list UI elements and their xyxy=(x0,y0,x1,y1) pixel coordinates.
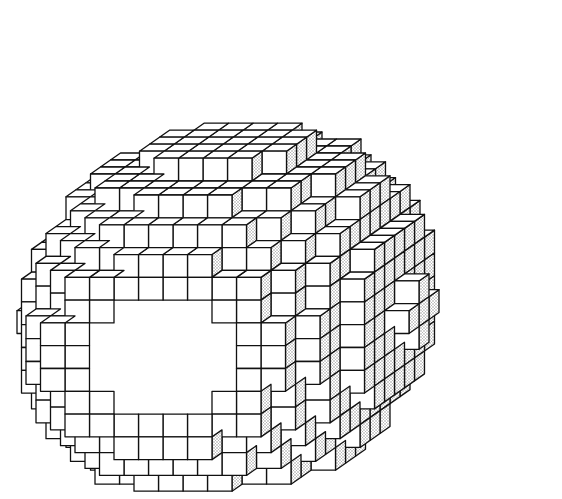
voxel-front-face xyxy=(159,195,184,218)
voxel-front-face xyxy=(65,368,90,391)
voxel-front-face xyxy=(198,225,223,248)
voxel-front-face xyxy=(247,248,272,271)
voxel-front-face xyxy=(340,370,365,393)
voxel-front-face xyxy=(271,293,296,316)
voxel-front-face xyxy=(296,361,321,384)
voxel-front-face xyxy=(139,255,164,278)
voxel-front-face xyxy=(203,158,228,181)
voxel-front-face xyxy=(212,277,237,300)
voxel-front-face xyxy=(228,158,253,181)
voxel-front-face xyxy=(261,346,286,369)
voxel-front-face xyxy=(139,277,164,300)
voxel-front-face xyxy=(340,302,365,325)
voxel-front-face xyxy=(261,323,286,346)
voxel-front-face xyxy=(340,325,365,348)
voxel-front-face xyxy=(242,188,267,211)
voxel-front-face xyxy=(350,249,375,272)
voxel-front-face xyxy=(163,414,188,437)
voxel-front-face xyxy=(222,248,247,271)
voxel-front-face xyxy=(311,174,336,197)
voxel-front-face xyxy=(395,281,420,304)
voxel-front-face xyxy=(41,346,66,369)
voxel-front-face xyxy=(188,414,213,437)
voxel-front-face xyxy=(139,414,164,437)
voxel-front-face xyxy=(257,218,282,241)
voxel-front-face xyxy=(237,346,262,369)
voxel-front-face xyxy=(340,279,365,302)
voxel-front-face xyxy=(237,368,262,391)
voxel-front-face xyxy=(188,277,213,300)
voxel-front-face xyxy=(296,339,321,362)
voxel-front-face xyxy=(212,300,237,323)
voxel-front-face xyxy=(149,225,174,248)
voxel-front-face xyxy=(281,241,306,264)
voxel-front-face xyxy=(291,211,316,234)
voxel-front-face xyxy=(340,347,365,370)
voxel-front-face xyxy=(261,368,286,391)
voxel-front-face xyxy=(65,414,90,437)
voxel-front-face xyxy=(237,391,262,414)
voxel-front-face xyxy=(114,414,139,437)
voxel-front-face xyxy=(124,225,149,248)
voxel-sphere-figure xyxy=(0,0,562,499)
voxel-front-face xyxy=(179,158,204,181)
voxel-front-face xyxy=(90,414,115,437)
voxel-front-face xyxy=(267,188,292,211)
voxel-front-face xyxy=(296,316,321,339)
voxel-front-face xyxy=(41,368,66,391)
voxel-front-face xyxy=(139,437,164,460)
voxel-front-face xyxy=(163,277,188,300)
voxel-front-face xyxy=(212,414,237,437)
voxel-front-face xyxy=(188,255,213,278)
voxel-front-face xyxy=(271,270,296,293)
voxel-front-face xyxy=(173,225,198,248)
voxel-front-face xyxy=(271,407,296,430)
voxel-front-face xyxy=(237,277,262,300)
voxel-front-face xyxy=(222,225,247,248)
voxel-front-face xyxy=(90,391,115,414)
voxel-front-face xyxy=(306,286,331,309)
voxel-front-face xyxy=(65,323,90,346)
voxel-front-face xyxy=(183,195,208,218)
voxel-front-face xyxy=(237,323,262,346)
voxel-front-face xyxy=(163,437,188,460)
voxel-front-face xyxy=(336,197,361,220)
voxel-front-face xyxy=(262,151,287,174)
voxel-layers xyxy=(17,123,439,491)
voxel-front-face xyxy=(114,437,139,460)
voxel-front-face xyxy=(114,277,139,300)
voxel-front-face xyxy=(306,263,331,286)
voxel-front-face xyxy=(306,400,331,423)
voxel-front-face xyxy=(212,391,237,414)
voxel-front-face xyxy=(222,453,247,476)
voxel-front-face xyxy=(163,255,188,278)
voxel-front-face xyxy=(385,311,410,334)
voxel-front-face xyxy=(65,277,90,300)
voxel-front-face xyxy=(65,391,90,414)
voxel-front-face xyxy=(90,277,115,300)
voxel-front-face xyxy=(90,300,115,323)
voxel-front-face xyxy=(65,346,90,369)
voxel-sphere-drawing xyxy=(0,0,562,499)
voxel-front-face xyxy=(41,323,66,346)
voxel-front-face xyxy=(316,234,341,257)
voxel-front-face xyxy=(237,300,262,323)
voxel-front-face xyxy=(237,414,262,437)
voxel-front-face xyxy=(188,437,213,460)
voxel-front-face xyxy=(208,195,233,218)
